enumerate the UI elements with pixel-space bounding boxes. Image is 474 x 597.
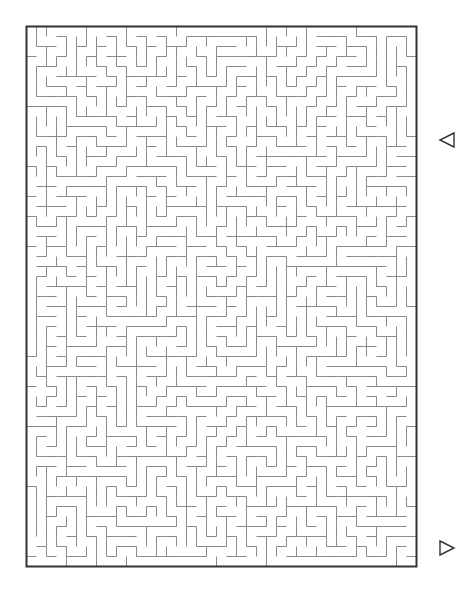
maze-puzzle-root [0, 0, 474, 597]
maze-grid [0, 0, 474, 597]
